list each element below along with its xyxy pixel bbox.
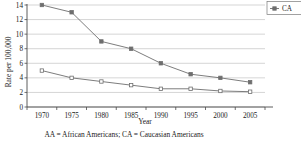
data-point-CA [159,62,162,65]
x-axis-label: Year [138,117,152,126]
data-point-AA [70,76,73,79]
data-point-AA [219,89,222,92]
data-point-AA [100,80,103,83]
x-tick-label: 1990 [154,112,169,120]
x-tick-label: 2005 [243,112,258,120]
x-tick-label: 1980 [94,112,109,120]
y-tick-label: 4 [19,74,23,82]
data-point-AA [40,69,43,72]
legend-label-CA: CA [282,5,293,13]
x-tick-label: 1970 [35,112,50,120]
data-point-CA [40,3,43,6]
legend-marker-CA [273,7,276,10]
data-point-CA [100,40,103,43]
y-tick-label: 8 [19,45,23,53]
figure-caption: AA = African Americans; CA = Caucasian A… [44,130,203,139]
x-tick-label: 1995 [183,112,198,120]
y-tick-labels-group: 02468101214 [16,2,27,112]
y-tick-label: 12 [16,16,24,24]
data-point-CA [189,73,192,76]
chart-legend: CA [267,2,301,15]
line-chart: 02468101214 1970197519801985199019952000… [0,0,301,142]
data-point-AA [248,90,251,93]
x-tick-label: 1975 [64,112,79,120]
y-tick-label: 14 [16,2,24,10]
y-axis-label: Rate per 100,000 [4,36,13,87]
chart-figure: 02468101214 1970197519801985199019952000… [0,0,301,142]
data-point-AA [129,83,132,86]
data-point-CA [248,81,251,84]
y-tick-label: 0 [19,104,23,112]
x-tick-label: 2000 [213,112,228,120]
data-point-AA [159,87,162,90]
x-tick-label: 1985 [124,112,139,120]
data-point-CA [70,11,73,14]
data-point-AA [189,87,192,90]
series-line-AA [42,71,250,92]
y-tick-label: 2 [19,89,23,97]
y-tick-label: 10 [16,31,24,39]
series-line-CA [42,5,250,82]
data-series-group [40,3,252,93]
data-point-CA [129,47,132,50]
data-point-CA [219,76,222,79]
y-tick-label: 6 [19,60,23,68]
